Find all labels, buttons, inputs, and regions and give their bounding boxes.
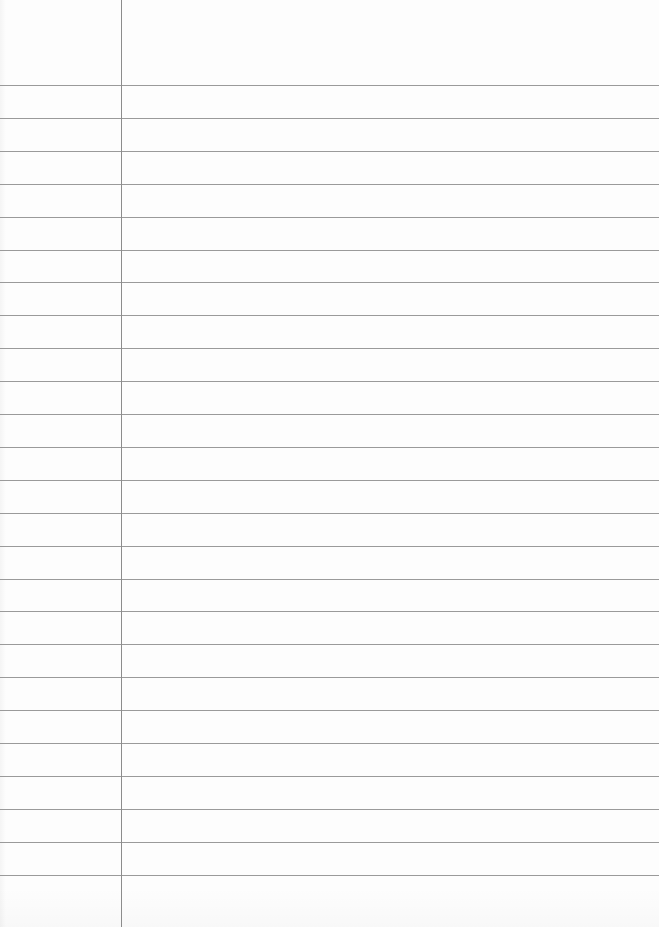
ruled-line [0,447,659,448]
lined-paper-page [0,0,659,927]
ruled-line [0,480,659,481]
ruled-line [0,710,659,711]
ruled-line [0,743,659,744]
ruled-line [0,579,659,580]
ruled-line [0,184,659,185]
left-edge-shadow [0,0,6,927]
ruled-line [0,282,659,283]
ruled-line [0,381,659,382]
ruled-line [0,118,659,119]
bottom-edge-shadow [0,887,659,927]
ruled-line [0,809,659,810]
ruled-line [0,85,659,86]
ruled-line [0,546,659,547]
ruled-line [0,611,659,612]
ruled-line [0,513,659,514]
margin-line [121,0,122,927]
ruled-line [0,348,659,349]
ruled-line [0,414,659,415]
ruled-line [0,644,659,645]
ruled-line [0,217,659,218]
ruled-line [0,677,659,678]
ruled-line [0,315,659,316]
ruled-line [0,151,659,152]
ruled-line [0,250,659,251]
ruled-line [0,875,659,876]
ruled-line [0,776,659,777]
ruled-line [0,842,659,843]
